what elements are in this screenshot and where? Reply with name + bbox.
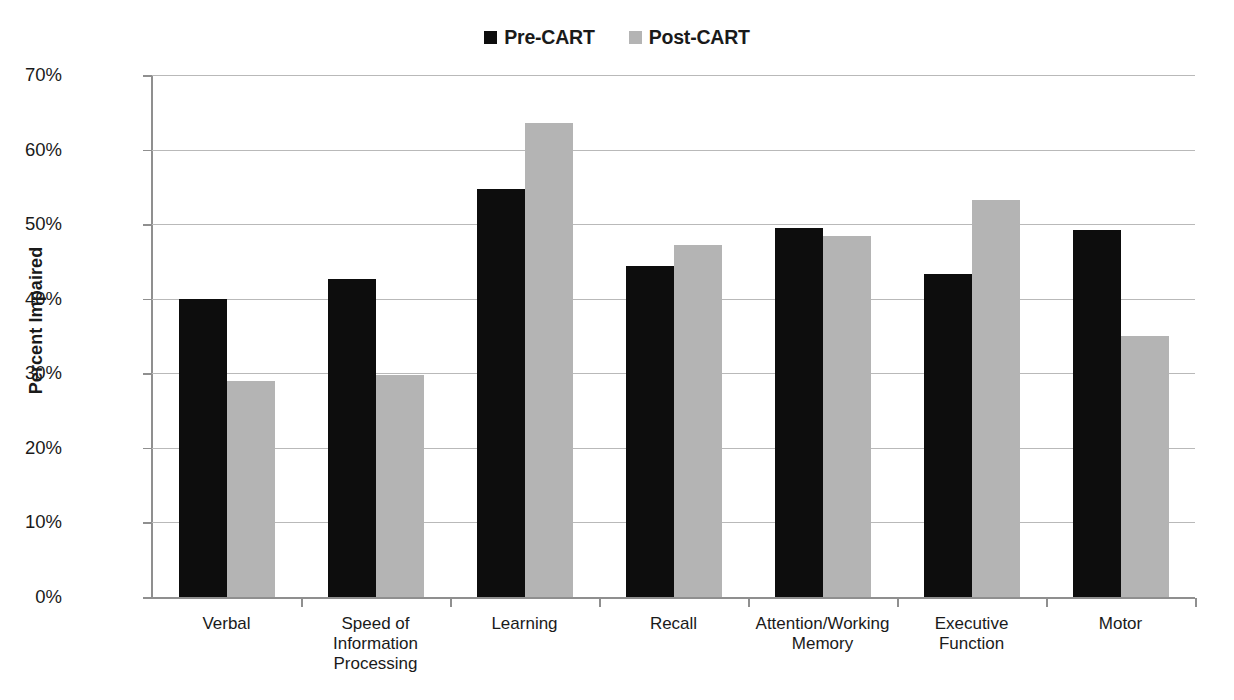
gridline (152, 150, 1195, 151)
square-marker-black-icon (484, 31, 497, 44)
bar-pre-cart (626, 266, 674, 597)
gridline (152, 75, 1195, 76)
x-axis-tick (1195, 598, 1197, 607)
bar-pre-cart (477, 189, 525, 597)
bar-post-cart (823, 236, 871, 597)
y-axis-tick-label: 20% (0, 439, 62, 458)
y-axis-tick-label: 70% (0, 66, 62, 85)
bar-pre-cart (775, 228, 823, 597)
y-axis-title: Percent Impaired (14, 0, 60, 640)
square-marker-gray-icon (629, 31, 642, 44)
x-axis-tick (1046, 598, 1048, 607)
bar-post-cart (674, 245, 722, 597)
y-axis-tick-label: 60% (0, 141, 62, 160)
bar-post-cart (376, 375, 424, 597)
legend-entry-pre-cart: Pre-CART (484, 26, 595, 49)
bar-pre-cart (328, 279, 376, 597)
bar-pre-cart (924, 274, 972, 597)
legend-label-pre-cart: Pre-CART (504, 26, 595, 49)
legend-entry-post-cart: Post-CART (629, 26, 750, 49)
plot-inner (152, 75, 1195, 597)
bar-post-cart (227, 381, 275, 597)
plot-area (152, 75, 1195, 597)
y-axis-tick-label: 30% (0, 364, 62, 383)
y-axis-tick-label: 50% (0, 215, 62, 234)
y-axis-tick-label: 10% (0, 513, 62, 532)
bar-pre-cart (179, 299, 227, 597)
x-axis-category-label: Motor (1026, 614, 1215, 634)
y-axis-tick-label: 0% (0, 588, 62, 607)
chart-legend: Pre-CART Post-CART (0, 26, 1234, 49)
bar-post-cart (525, 123, 573, 597)
x-axis-tick (599, 598, 601, 607)
legend-label-post-cart: Post-CART (649, 26, 750, 49)
y-axis-tick-label: 40% (0, 290, 62, 309)
x-axis-line (152, 597, 1195, 599)
bar-post-cart (1121, 336, 1169, 597)
x-axis-tick (301, 598, 303, 607)
bar-pre-cart (1073, 230, 1121, 597)
bar-chart: Pre-CART Post-CART Percent Impaired 0%10… (0, 0, 1234, 700)
gridline (152, 224, 1195, 225)
bar-post-cart (972, 200, 1020, 597)
x-axis-tick (897, 598, 899, 607)
x-axis-tick (748, 598, 750, 607)
x-axis-tick (450, 598, 452, 607)
